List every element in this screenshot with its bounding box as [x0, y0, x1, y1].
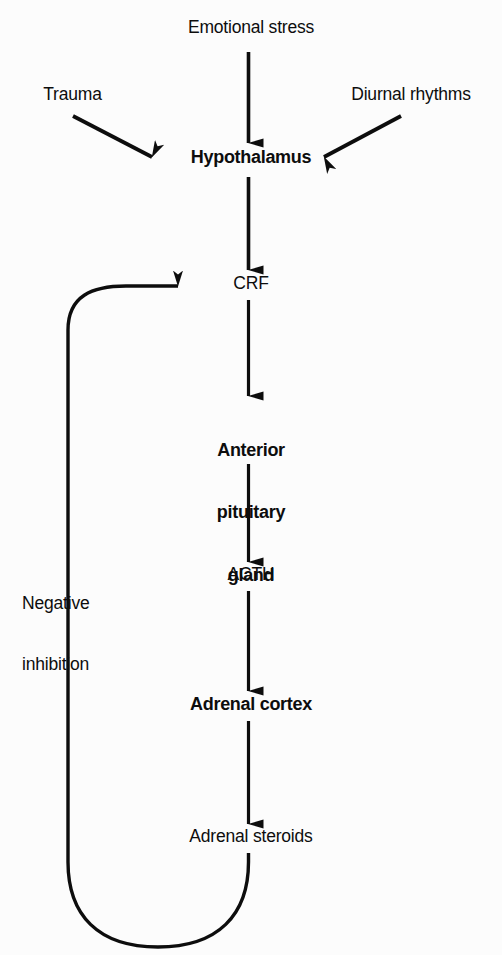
label-negative-inhibition: Negative inhibition: [22, 553, 152, 714]
node-emotional-stress: Emotional stress: [151, 18, 351, 38]
node-adrenal-steroids: Adrenal steroids: [141, 827, 361, 847]
edge-trauma-to-hypothalamus: [73, 116, 152, 157]
node-anterior-pituitary-line-1: Anterior: [171, 440, 331, 461]
node-hypothalamus: Hypothalamus: [151, 147, 351, 167]
node-diurnal-rhythms: Diurnal rhythms: [320, 85, 502, 105]
node-crf: CRF: [201, 274, 301, 294]
label-negative-inhibition-line-2: inhibition: [22, 654, 152, 674]
label-negative-inhibition-line-1: Negative: [22, 593, 152, 613]
node-anterior-pituitary-gland: Anterior pituitary gland: [171, 399, 331, 627]
node-adrenal-cortex: Adrenal cortex: [141, 694, 361, 714]
node-trauma: Trauma: [0, 85, 145, 105]
node-anterior-pituitary-line-2: pituitary: [171, 502, 331, 523]
diagram-canvas: Emotional stress Trauma Diurnal rhythms …: [0, 0, 502, 955]
node-acth: ACTH: [196, 565, 306, 585]
